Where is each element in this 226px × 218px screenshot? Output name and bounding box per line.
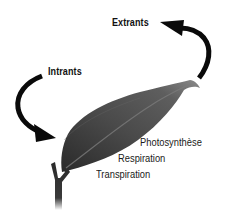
intrants-label: Intrants — [48, 66, 82, 77]
extrants-label: Extrants — [112, 17, 149, 28]
arrow-intrants — [18, 76, 56, 142]
process-transpiration: Transpiration — [96, 169, 150, 180]
process-respiration: Respiration — [118, 153, 165, 164]
process-photosynthese: Photosynthèse — [140, 137, 202, 148]
diagram-art — [0, 0, 226, 218]
arrow-extrants — [160, 20, 209, 78]
leaf-diagram: Extrants Intrants Photosynthèse Respirat… — [0, 0, 226, 218]
